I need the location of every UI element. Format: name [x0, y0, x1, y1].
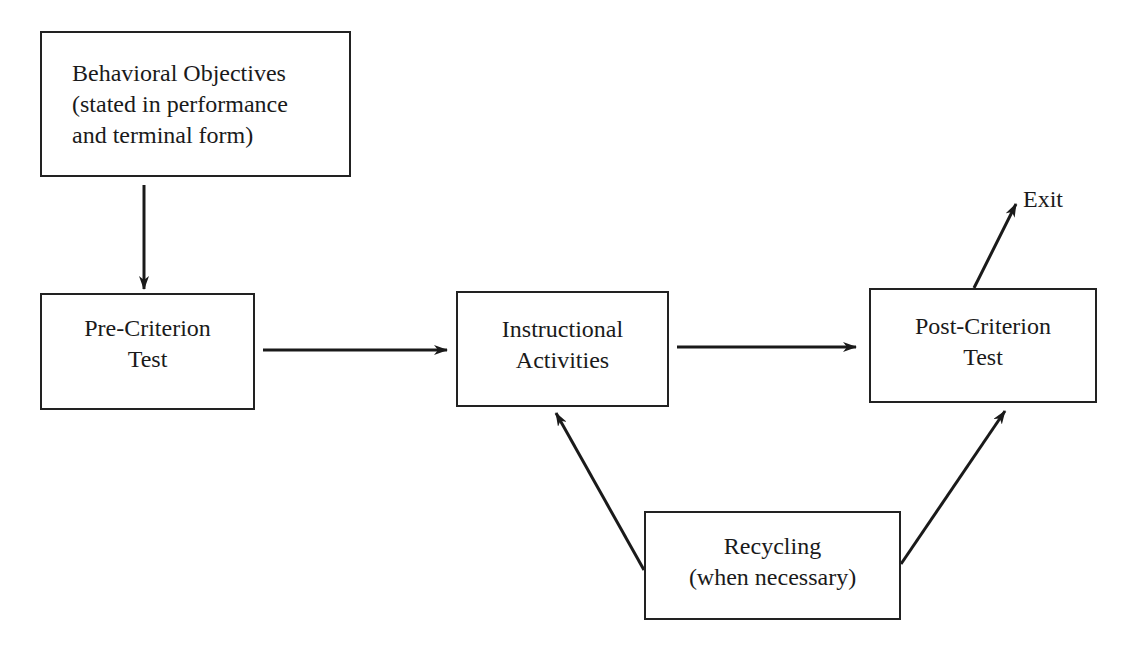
- node-text-line: and terminal form): [72, 120, 288, 151]
- node-text-line: Test: [915, 342, 1051, 373]
- node-text-line: Post-Criterion: [915, 311, 1051, 342]
- node-behavioral-objectives: Behavioral Objectives (stated in perform…: [40, 31, 351, 177]
- node-text-line: Instructional: [502, 314, 623, 345]
- node-text-line: Pre-Criterion: [84, 313, 211, 344]
- exit-label: Exit: [1023, 186, 1063, 213]
- node-pre-criterion-test: Pre-Criterion Test: [40, 293, 255, 410]
- arrow-posttest-to-exit: [974, 204, 1016, 288]
- node-text-line: (when necessary): [689, 562, 856, 593]
- arrow-recycling-to-instruction: [556, 413, 644, 570]
- node-text-line: Behavioral Objectives: [72, 58, 288, 89]
- node-text-line: Recycling: [689, 531, 856, 562]
- node-recycling: Recycling (when necessary): [644, 511, 901, 620]
- node-instructional-activities: Instructional Activities: [456, 291, 669, 407]
- arrow-recycling-to-posttest: [901, 411, 1005, 564]
- node-text-line: (stated in performance: [72, 89, 288, 120]
- node-post-criterion-test: Post-Criterion Test: [869, 288, 1097, 403]
- node-text-line: Activities: [502, 345, 623, 376]
- node-text-line: Test: [84, 344, 211, 375]
